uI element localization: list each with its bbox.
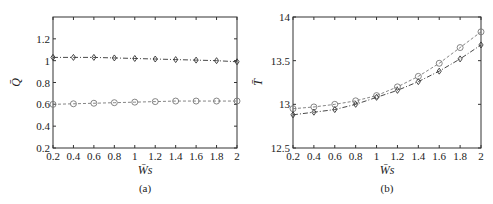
x-tick-label: 1.2	[391, 150, 405, 162]
x-tick-label: 1.4	[411, 150, 425, 162]
x-tick-label: 0.4	[307, 150, 321, 162]
y-tick-label: 0.8	[36, 77, 50, 89]
figure: 0.20.40.60.811.21.41.61.820.20.40.60.811…	[0, 0, 493, 204]
y-tick-label: 1.2	[36, 33, 50, 45]
x-axis-label: W̄s	[138, 163, 153, 177]
x-tick-label: 0.6	[87, 150, 101, 162]
y-tick-label: 0.2	[36, 142, 50, 154]
y-tick-label: 1	[45, 55, 51, 67]
x-tick-label: 1.8	[453, 150, 467, 162]
plot-frame	[53, 17, 237, 148]
plot-frame	[293, 17, 481, 148]
panel-caption: (a)	[139, 182, 152, 195]
x-tick-label: 0.8	[107, 150, 121, 162]
series-line	[53, 57, 237, 61]
series-line	[293, 32, 481, 109]
chart-panel-b: 0.20.40.60.811.21.41.61.8212.51313.514W̄…	[251, 11, 484, 195]
y-tick-label: 13.5	[271, 55, 291, 67]
chart-panel-a: 0.20.40.60.811.21.41.61.820.20.40.60.811…	[9, 17, 240, 195]
panel-caption: (b)	[381, 182, 394, 195]
x-tick-label: 2	[234, 150, 240, 162]
y-axis-label: Q̄	[9, 78, 23, 87]
y-axis-label: T̄	[251, 78, 265, 86]
x-tick-label: 0.8	[349, 150, 363, 162]
x-tick-label: 1.6	[432, 150, 446, 162]
x-tick-label: 1.6	[189, 150, 203, 162]
series-line	[293, 45, 481, 115]
x-tick-label: 1	[374, 150, 380, 162]
x-axis-label: W̄s	[380, 163, 395, 177]
x-tick-label: 1.2	[148, 150, 162, 162]
x-tick-label: 0.4	[67, 150, 81, 162]
y-tick-label: 0.4	[36, 120, 50, 132]
x-tick-label: 1.4	[169, 150, 183, 162]
x-tick-label: 2	[478, 150, 484, 162]
series-line	[53, 101, 237, 104]
y-tick-label: 0.6	[36, 98, 50, 110]
y-tick-label: 14	[279, 11, 291, 23]
y-tick-label: 13	[279, 98, 291, 110]
x-tick-label: 1	[132, 150, 138, 162]
x-tick-label: 1.8	[210, 150, 224, 162]
y-tick-label: 12.5	[271, 142, 291, 154]
x-tick-label: 0.6	[328, 150, 342, 162]
